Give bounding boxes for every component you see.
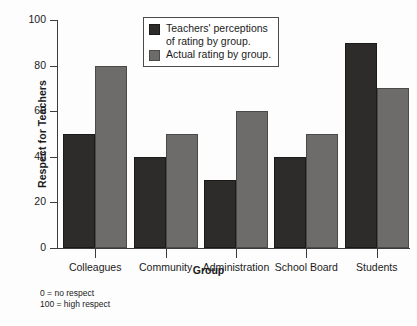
y-tick-100: 100: [50, 20, 57, 21]
y-tick-label-60: 60: [34, 104, 46, 116]
bar-students-series-1: [345, 43, 377, 248]
y-tick-label-80: 80: [34, 59, 46, 71]
y-tick-label-0: 0: [40, 241, 46, 253]
y-axis-line: [57, 20, 58, 249]
bar-school-board-series-2: [306, 134, 338, 248]
bar-chart-figure: Respect for Teachers 020406080100 Collea…: [0, 0, 417, 326]
y-tick-80: 80: [50, 66, 57, 67]
bar-administration-series-2: [236, 111, 268, 248]
y-tick-60: 60: [50, 111, 57, 112]
x-tick-school-board: [306, 249, 307, 258]
bar-group-school-board: [274, 20, 338, 248]
legend-item-actual: Actual rating by group.: [149, 48, 271, 61]
footnote-line-2: 100 = high respect: [40, 299, 110, 310]
bar-colleagues-series-1: [63, 134, 95, 248]
y-tick-label-20: 20: [34, 195, 46, 207]
y-tick-label-40: 40: [34, 150, 46, 162]
y-tick-20: 20: [50, 202, 57, 203]
footnote: 0 = no respect 100 = high respect: [40, 288, 110, 310]
bar-group-colleagues: [63, 20, 127, 248]
legend-label-perceptions: Teachers' perceptionsof rating by group.: [166, 22, 268, 47]
x-tick-administration: [236, 249, 237, 258]
y-tick-40: 40: [50, 157, 57, 158]
y-tick-label-100: 100: [28, 13, 46, 25]
chart-legend: Teachers' perceptionsof rating by group.…: [143, 17, 279, 67]
bar-administration-series-1: [204, 180, 236, 248]
bar-colleagues-series-2: [95, 66, 127, 248]
bar-community-series-2: [166, 134, 198, 248]
x-axis-title: Group: [0, 264, 417, 276]
legend-swatch-actual-icon: [149, 50, 160, 61]
y-tick-0: 0: [50, 248, 57, 249]
x-tick-community: [166, 249, 167, 258]
legend-label-actual: Actual rating by group.: [166, 48, 271, 61]
legend-item-perceptions: Teachers' perceptionsof rating by group.: [149, 22, 271, 47]
bar-school-board-series-1: [274, 157, 306, 248]
bar-group-students: [345, 20, 409, 248]
legend-swatch-perceptions-icon: [149, 24, 160, 35]
x-axis-line: [57, 248, 410, 249]
bar-community-series-1: [134, 157, 166, 248]
x-tick-colleagues: [95, 249, 96, 258]
bar-students-series-2: [377, 88, 409, 248]
x-tick-students: [377, 249, 378, 258]
footnote-line-1: 0 = no respect: [40, 288, 110, 299]
